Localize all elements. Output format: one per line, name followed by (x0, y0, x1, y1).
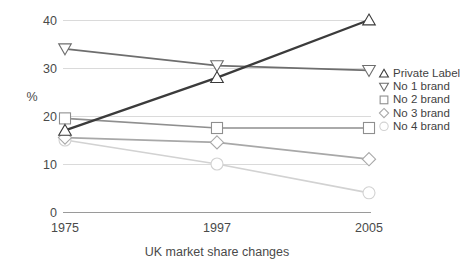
y-tick-label-0: 0 (50, 206, 57, 220)
legend-item-no-3-brand[interactable]: No 3 brand (379, 107, 450, 119)
data-point-no-2-brand-1975 (59, 113, 70, 124)
legend-marker-no-2-brand (380, 96, 388, 104)
data-point-no-3-brand-1997 (210, 136, 223, 149)
legend-marker-private-label (380, 69, 389, 77)
data-point-private-label-2005 (363, 14, 376, 25)
chart-legend: Private LabelNo 1 brandNo 2 brandNo 3 br… (379, 67, 460, 132)
legend-label-private-label: Private Label (393, 67, 460, 79)
y-tick-labels: 40 30 20 10 0 (43, 14, 57, 220)
legend-marker-no-4-brand (380, 122, 388, 130)
line-chart-plot: 40 30 20 10 0 % 1975 1997 2005 UK market… (0, 0, 467, 265)
x-tick-label-1975: 1975 (51, 221, 79, 235)
x-tick-labels: 1975 1997 2005 (51, 221, 383, 235)
series-private-label (59, 14, 376, 135)
x-axis-title: UK market share changes (145, 245, 290, 259)
y-tick-label-10: 10 (43, 158, 57, 172)
legend-item-no-2-brand[interactable]: No 2 brand (380, 93, 450, 105)
data-point-no-2-brand-2005 (363, 122, 374, 133)
legend-item-no-1-brand[interactable]: No 1 brand (380, 80, 450, 92)
legend-label-no-3-brand: No 3 brand (393, 107, 450, 119)
legend-marker-no-3-brand (379, 108, 388, 117)
chart-container: 40 30 20 10 0 % 1975 1997 2005 UK market… (0, 0, 467, 265)
y-tick-label-30: 30 (43, 62, 57, 76)
legend-label-no-1-brand: No 1 brand (393, 80, 450, 92)
x-tick-label-2005: 2005 (355, 221, 383, 235)
legend-item-no-4-brand[interactable]: No 4 brand (380, 120, 450, 132)
y-axis-label: % (26, 90, 37, 104)
legend-label-no-2-brand: No 2 brand (393, 93, 450, 105)
y-tick-label-40: 40 (43, 14, 57, 28)
legend-marker-no-1-brand (380, 83, 389, 91)
legend-label-no-4-brand: No 4 brand (393, 120, 450, 132)
data-point-no-2-brand-1997 (211, 122, 222, 133)
y-tick-label-20: 20 (43, 110, 57, 124)
series-layer (58, 14, 375, 199)
data-point-no-4-brand-1997 (211, 158, 223, 170)
x-tick-label-1997: 1997 (203, 221, 231, 235)
legend-item-private-label[interactable]: Private Label (380, 67, 461, 79)
data-point-no-4-brand-2005 (363, 187, 375, 199)
